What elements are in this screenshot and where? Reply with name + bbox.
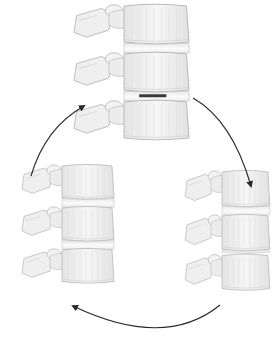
arrow-right-to-left [73,305,220,328]
spine-segment-bottom-right [185,170,270,290]
spine-segment-bottom-left [22,164,114,283]
spine-segment-top [74,4,189,140]
spine-cycle-diagram [0,0,279,338]
disc-lesion-mark [139,94,167,97]
